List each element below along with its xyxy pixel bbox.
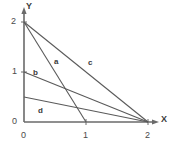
plot-area <box>0 0 184 150</box>
series-label-d: d <box>38 107 43 115</box>
y-axis-label: Y <box>26 2 32 11</box>
y-tick-label-1: 1 <box>12 67 17 76</box>
series-label-c: c <box>88 59 92 67</box>
x-axis-label: X <box>161 115 167 124</box>
x-tick-label-1: 1 <box>83 131 88 140</box>
x-tick-label-2: 2 <box>145 131 150 140</box>
series-label-a: a <box>54 58 58 66</box>
y-tick-label-0: 0 <box>12 117 17 126</box>
y-tick-label-2: 2 <box>11 17 16 26</box>
series-label-b: b <box>33 69 38 77</box>
line-graph-figure: Y X 2 1 0 0 1 2 a b c d <box>0 0 184 150</box>
x-tick-label-0: 0 <box>21 131 26 140</box>
x-axis-arrow-icon <box>152 119 159 124</box>
